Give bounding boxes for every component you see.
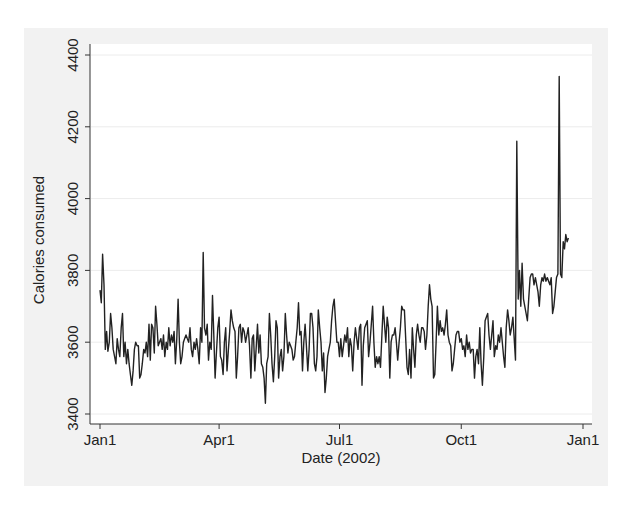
y-tick-label: 3400: [64, 397, 81, 430]
y-tick-label: 3800: [64, 254, 81, 287]
x-axis: Jan1Apr1Jul1Oct1Jan1: [84, 424, 600, 448]
x-axis-title: Date (2002): [301, 449, 380, 466]
y-tick-label: 3600: [64, 326, 81, 359]
y-tick-label: 4200: [64, 110, 81, 143]
line-chart: 340036003800400042004400 Jan1Apr1Jul1Oct…: [0, 0, 627, 505]
y-tick-label: 4000: [64, 182, 81, 215]
y-axis-title: Calories consumed: [30, 176, 47, 304]
x-tick-label: Oct1: [445, 431, 477, 448]
x-tick-label: Jan1: [84, 431, 117, 448]
x-tick-label: Jan1: [567, 431, 600, 448]
y-axis: 340036003800400042004400: [64, 38, 90, 430]
x-tick-label: Apr1: [203, 431, 235, 448]
x-tick-label: Jul1: [326, 431, 354, 448]
y-tick-label: 4400: [64, 38, 81, 71]
